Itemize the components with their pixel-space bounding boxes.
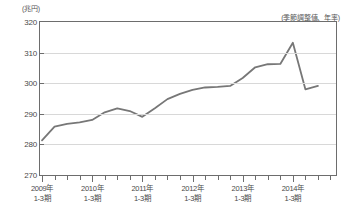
y-tick-label: 290 (3, 109, 37, 118)
x-axis-label-year: 2014年 (282, 184, 304, 193)
x-axis-label-year: 2009年 (31, 184, 53, 193)
x-tick-minor (130, 176, 131, 180)
x-axis-label-year: 2012年 (181, 184, 203, 193)
x-axis-label: 2009年1-3期 (22, 184, 62, 204)
x-axis-label-quarter: 1-3期 (223, 194, 263, 204)
y-tick-mark (40, 83, 44, 84)
x-axis-label-quarter: 1-3期 (273, 194, 313, 204)
gridline (40, 114, 336, 115)
y-tick-label: 280 (3, 140, 37, 149)
gridline (40, 144, 336, 145)
x-tick-minor (230, 176, 231, 180)
x-tick-major (42, 176, 43, 182)
x-tick-minor (205, 176, 206, 180)
gridline (40, 53, 336, 54)
x-tick-minor (155, 176, 156, 180)
x-tick-major (92, 176, 93, 182)
x-axis-label: 2014年1-3期 (273, 184, 313, 204)
x-tick-minor (280, 176, 281, 180)
y-tick-label: 300 (3, 79, 37, 88)
x-tick-minor (218, 176, 219, 180)
y-tick-mark (40, 53, 44, 54)
y-tick-mark (40, 114, 44, 115)
x-tick-minor (330, 176, 331, 180)
x-axis-label-year: 2011年 (132, 184, 154, 193)
x-tick-minor (167, 176, 168, 180)
gridline (40, 83, 336, 84)
line-series (40, 22, 336, 175)
y-axis-labels: 270280290300310320 (0, 0, 37, 215)
x-tick-major (142, 176, 143, 182)
x-axis-label-quarter: 1-3期 (72, 194, 112, 204)
x-axis-label-quarter: 1-3期 (22, 194, 62, 204)
x-axis-label-year: 2010年 (81, 184, 103, 193)
x-axis-label: 2011年1-3期 (122, 184, 162, 204)
x-tick-minor (305, 176, 306, 180)
x-tick-minor (80, 176, 81, 180)
x-tick-minor (67, 176, 68, 180)
y-tick-label: 320 (3, 18, 37, 27)
y-tick-label: 270 (3, 171, 37, 180)
x-axis-label: 2013年1-3期 (223, 184, 263, 204)
plot-area (39, 21, 337, 176)
x-tick-minor (55, 176, 56, 180)
x-tick-major (243, 176, 244, 182)
x-tick-minor (255, 176, 256, 180)
y-tick-mark (40, 144, 44, 145)
x-tick-minor (180, 176, 181, 180)
x-tick-major (193, 176, 194, 182)
x-tick-minor (318, 176, 319, 180)
x-axis-label-quarter: 1-3期 (122, 194, 162, 204)
x-axis-label-quarter: 1-3期 (173, 194, 213, 204)
x-tick-minor (105, 176, 106, 180)
chart-container: (兆円) (季節調整値、年率) 270280290300310320 2009年… (0, 0, 346, 215)
x-tick-minor (268, 176, 269, 180)
data-line (42, 43, 318, 141)
x-tick-minor (117, 176, 118, 180)
x-axis-label-year: 2013年 (232, 184, 254, 193)
x-axis-label: 2012年1-3期 (173, 184, 213, 204)
y-tick-label: 310 (3, 48, 37, 57)
x-axis-label: 2010年1-3期 (72, 184, 112, 204)
x-tick-major (293, 176, 294, 182)
